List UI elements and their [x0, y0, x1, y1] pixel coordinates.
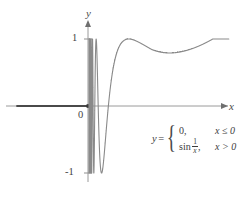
case-2-condition: x > 0	[213, 141, 236, 152]
x-axis-arrowhead	[221, 103, 228, 109]
equation-lhs: y	[152, 133, 157, 144]
plot-canvas	[0, 0, 240, 206]
origin-label: 0	[78, 110, 83, 121]
case-2-expression: sin 1 x ,	[179, 138, 213, 155]
case-1-expression: 0,	[179, 125, 213, 136]
equation-equals-sign: =	[158, 133, 164, 144]
equation-cases: 0, x ≤ 0 sin 1 x , x > 0	[179, 124, 236, 152]
case-1-condition: x ≤ 0	[213, 125, 235, 136]
y-axis-arrowhead	[85, 20, 91, 27]
equation-case-row-1: 0, x ≤ 0	[179, 124, 236, 136]
one-over-x-fraction: 1 x	[192, 138, 198, 155]
y-tick-label-one: 1	[72, 33, 77, 44]
fraction-numerator: 1	[192, 138, 198, 146]
sine-function-name: sin	[179, 141, 191, 152]
y-tick-label-negative-one: -1	[65, 167, 74, 178]
y-axis-label: y	[86, 8, 91, 19]
piecewise-equation: y = { 0, x ≤ 0 sin 1 x , x > 0	[152, 124, 236, 152]
case-2-comma: ,	[198, 141, 201, 152]
equation-case-row-2: sin 1 x , x > 0	[179, 140, 236, 152]
function-graph-figure: y x 1 -1 0 y = { 0, x ≤ 0 sin 1 x ,	[0, 0, 240, 206]
equation-brace: {	[167, 128, 176, 147]
x-axis-label: x	[229, 101, 234, 112]
fraction-denominator: x	[192, 147, 197, 155]
